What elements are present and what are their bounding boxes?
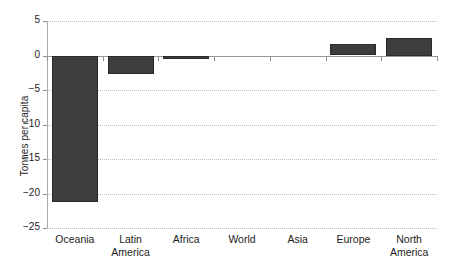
y-tick-label: −10 <box>10 118 40 129</box>
x-tick-label: Oceania <box>47 233 103 246</box>
gridline-5 <box>47 21 437 22</box>
bar <box>386 38 432 55</box>
plot-area <box>47 21 437 228</box>
bar <box>163 56 209 59</box>
gridline-neg25 <box>47 228 437 229</box>
bar <box>52 56 98 203</box>
y-tick-label: −25 <box>10 221 40 232</box>
gridline-neg15 <box>47 159 437 160</box>
x-tick-label: North America <box>381 233 437 259</box>
x-tick-label: World <box>214 233 270 246</box>
x-tick-label: Latin America <box>103 233 159 259</box>
bar-chart: Tonnes per capita 50−5−10−15−20−25 Ocean… <box>0 0 450 272</box>
bar <box>108 56 154 75</box>
x-tick-label: Asia <box>270 233 326 246</box>
y-tick-label: −5 <box>10 83 40 94</box>
gridline-neg20 <box>47 194 437 195</box>
x-tick-label: Europe <box>326 233 382 246</box>
x-tick-mark <box>437 56 438 61</box>
y-tick-label: −20 <box>10 187 40 198</box>
bar <box>330 44 376 55</box>
y-tick-label: 0 <box>10 49 40 60</box>
gridline-neg5 <box>47 90 437 91</box>
gridline-0 <box>47 56 437 57</box>
x-tick-label: Africa <box>158 233 214 246</box>
gridline-neg10 <box>47 125 437 126</box>
y-tick-label: 5 <box>10 14 40 25</box>
y-tick-label: −15 <box>10 152 40 163</box>
